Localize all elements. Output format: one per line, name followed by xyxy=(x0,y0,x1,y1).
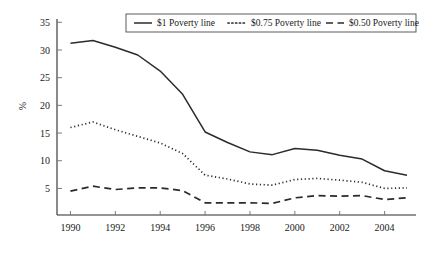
x-tick-label: 1990 xyxy=(60,222,80,233)
x-tick-label: 1996 xyxy=(195,222,215,233)
chart-figure: 5101520253035 19901992199419961998200020… xyxy=(0,0,436,254)
legend-label-2: $0.75 Poverty line xyxy=(251,18,321,28)
x-tick-label: 2002 xyxy=(330,222,350,233)
x-tick-label: 1992 xyxy=(105,222,125,233)
data-series-group xyxy=(70,41,407,204)
x-tick-label: 2000 xyxy=(285,222,305,233)
y-tick-label: 10 xyxy=(40,155,50,166)
legend-label-1: $1 Poverty line xyxy=(157,18,215,28)
series-line-1 xyxy=(70,41,407,176)
y-tick-label: 30 xyxy=(40,45,50,56)
line-chart-canvas: 5101520253035 19901992199419961998200020… xyxy=(0,0,436,254)
x-tick-label: 1994 xyxy=(150,222,170,233)
y-tick-label: 15 xyxy=(40,128,50,139)
legend-label-3: $0.50 Poverty line xyxy=(349,18,419,28)
series-line-3 xyxy=(70,186,407,203)
y-tick-label: 35 xyxy=(40,17,50,28)
y-axis-title: % xyxy=(17,102,28,110)
y-tick-label: 25 xyxy=(40,72,50,83)
y-tick-label: 20 xyxy=(40,100,50,111)
y-tick-label: 5 xyxy=(45,183,50,194)
x-tick-label: 1998 xyxy=(240,222,260,233)
chart-legend: $1 Poverty line$0.75 Poverty line$0.50 P… xyxy=(126,14,419,32)
x-tick-label: 2004 xyxy=(375,222,395,233)
series-line-2 xyxy=(70,122,407,188)
y-tick-marks xyxy=(57,22,62,188)
x-tick-labels: 19901992199419961998200020022004 xyxy=(60,222,394,233)
y-tick-labels: 5101520253035 xyxy=(40,17,50,194)
x-tick-marks xyxy=(70,211,384,215)
